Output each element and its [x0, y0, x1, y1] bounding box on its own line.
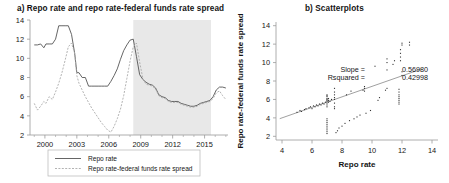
panel-b-plot: 2468101214468101214Repo rateRepo rate-fe…: [232, 0, 449, 183]
scatter-point: [334, 106, 335, 107]
x-axis-title: Repo rate: [339, 160, 376, 169]
scatter-point: [400, 60, 401, 61]
scatter-point: [400, 49, 401, 50]
scatter-point: [314, 106, 315, 107]
scatter-point: [364, 88, 365, 89]
legend-box: [48, 150, 200, 176]
panel-b-scatter: b) Scatterplots 2468101214468101214Repo …: [232, 0, 449, 183]
scatter-point: [392, 64, 393, 65]
x-tick-label: 2003: [69, 140, 85, 149]
scatter-point: [334, 103, 335, 104]
y-tick-label: 2: [20, 131, 24, 140]
scatter-point: [317, 105, 318, 106]
scatter-point: [400, 53, 401, 54]
scatter-point: [374, 66, 375, 67]
y-tick-label: 12: [262, 40, 270, 49]
scatter-point: [409, 42, 410, 43]
scatter-point: [326, 129, 327, 130]
panel-a-title: a) Repo rate and repo rate-federal funds…: [17, 4, 224, 13]
scatter-point: [394, 60, 395, 61]
y-tick-label: 2: [266, 132, 270, 141]
scatter-point: [311, 108, 312, 109]
x-tick-label: 4: [280, 146, 284, 155]
scatter-point: [409, 44, 410, 45]
scatter-point: [326, 118, 327, 119]
y-tick-label: 12: [16, 35, 24, 44]
scatter-point: [337, 130, 338, 131]
scatter-point: [386, 88, 387, 89]
scatter-point: [344, 123, 345, 124]
scatter-point: [335, 132, 336, 133]
scatter-point: [326, 103, 327, 104]
y-tick-label: 8: [266, 77, 270, 86]
shaded-region: [133, 20, 211, 135]
scatter-point: [365, 113, 366, 114]
x-tick-label: 2015: [196, 140, 212, 149]
scatter-point: [346, 94, 347, 95]
y-tick-label: 4: [20, 112, 24, 121]
x-tick-label: 2012: [164, 140, 180, 149]
scatter-point: [310, 106, 311, 107]
rsquared-value: 0.42998: [402, 73, 428, 82]
scatter-point: [305, 108, 306, 109]
scatter-point: [356, 116, 357, 117]
scatter-point: [386, 62, 387, 63]
y-tick-label: 6: [266, 95, 270, 104]
scatter-point: [377, 100, 378, 101]
y-tick-label: 6: [20, 92, 24, 101]
scatter-point: [379, 97, 380, 98]
scatter-point: [326, 94, 327, 95]
x-tick-label: 14: [428, 146, 436, 155]
scatter-point: [326, 122, 327, 123]
scatter-point: [326, 120, 327, 121]
scatter-point: [326, 104, 327, 105]
scatter-point: [401, 43, 402, 44]
scatter-point: [398, 96, 399, 97]
scatter-point: [401, 44, 402, 45]
x-tick-label: 2000: [37, 140, 53, 149]
figure-root: a) Repo rate and repo rate-federal funds…: [0, 0, 449, 183]
scatter-point: [398, 89, 399, 90]
scatter-point: [398, 98, 399, 99]
scatter-point: [301, 111, 302, 112]
scatter-point: [323, 103, 324, 104]
panel-a-plot: 2468101214200020032006200920122015Repo r…: [0, 0, 232, 183]
scatter-point: [328, 98, 329, 99]
scatter-point: [326, 101, 327, 102]
scatter-point: [362, 90, 363, 91]
y-tick-label: 4: [266, 114, 270, 123]
scatter-point: [299, 110, 300, 111]
scatter-point: [326, 106, 327, 107]
x-tick-label: 8: [340, 146, 344, 155]
scatter-point: [353, 118, 354, 119]
scatter-point: [304, 109, 305, 110]
y-tick-label: 8: [20, 73, 24, 82]
scatter-point: [400, 56, 401, 57]
x-tick-label: 10: [368, 146, 376, 155]
x-tick-label: 2009: [132, 140, 148, 149]
y-tick-label: 10: [16, 54, 24, 63]
scatter-point: [334, 88, 335, 89]
scatter-point: [322, 103, 323, 104]
scatter-point: [364, 86, 365, 87]
scatter-point: [326, 133, 327, 134]
scatter-point: [338, 127, 339, 128]
legend-label-1: Repo rate-federal funds rate spread: [88, 165, 193, 173]
scatter-point: [319, 103, 320, 104]
scatter-point: [386, 69, 387, 70]
scatter-point: [349, 120, 350, 121]
scatter-point: [326, 99, 327, 100]
scatter-point: [334, 92, 335, 93]
scatter-point: [359, 115, 360, 116]
scatter-point: [370, 110, 371, 111]
scatter-point: [341, 126, 342, 127]
scatter-point: [320, 104, 321, 105]
scatter-point: [334, 108, 335, 109]
y-tick-label: 10: [262, 58, 270, 67]
scatter-point: [328, 100, 329, 101]
panel-a-timeseries: a) Repo rate and repo rate-federal funds…: [0, 0, 232, 183]
scatter-point: [308, 107, 309, 108]
scatter-point: [334, 99, 335, 100]
scatter-point: [326, 126, 327, 127]
scatter-point: [398, 92, 399, 93]
